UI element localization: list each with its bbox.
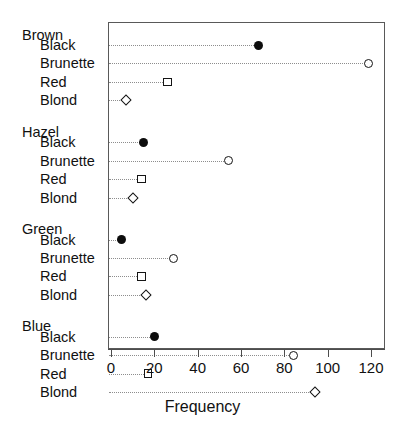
data-point-blue-blond (309, 386, 320, 397)
data-point-hazel-black (139, 138, 148, 147)
x-axis-tick (111, 350, 112, 357)
data-point-green-brunette (169, 254, 178, 263)
data-point-green-red (137, 272, 146, 281)
x-axis-tick (371, 350, 372, 357)
data-point-hazel-brunette (224, 156, 233, 165)
leader-line (109, 45, 258, 46)
leader-line (109, 392, 315, 393)
item-label-blue-red: Red (40, 367, 67, 382)
item-label-hazel-blond: Blond (40, 191, 77, 206)
x-axis-title: Frequency (0, 399, 405, 415)
x-axis-tick-label: 120 (346, 360, 396, 375)
item-label-brown-blond: Blond (40, 93, 77, 108)
dot-chart-figure: BrownBlackBrunetteRedBlondHazelBlackBrun… (0, 0, 405, 442)
data-point-brown-red (163, 78, 172, 87)
x-axis-tick (241, 350, 242, 357)
data-point-hazel-red (137, 175, 146, 184)
leader-line (109, 337, 154, 338)
x-axis-tick (154, 350, 155, 357)
item-label-brown-black: Black (40, 38, 75, 53)
x-axis-tick (284, 350, 285, 357)
item-label-green-blond: Blond (40, 288, 77, 303)
item-label-green-red: Red (40, 269, 67, 284)
leader-line (109, 355, 293, 356)
leader-line (109, 161, 228, 162)
x-axis-line (108, 349, 385, 350)
item-label-hazel-black: Black (40, 135, 75, 150)
leader-line (109, 82, 167, 83)
leader-line (109, 63, 369, 64)
item-label-green-brunette: Brunette (40, 251, 95, 266)
item-label-blue-blond: Blond (40, 385, 77, 400)
item-label-green-black: Black (40, 233, 75, 248)
item-label-blue-black: Black (40, 330, 75, 345)
x-axis-tick (198, 350, 199, 357)
plot-panel-border (108, 22, 385, 349)
x-axis-tick (328, 350, 329, 357)
item-label-hazel-red: Red (40, 172, 67, 187)
leader-line (109, 258, 174, 259)
item-label-brown-brunette: Brunette (40, 56, 95, 71)
data-point-brown-black (254, 41, 263, 50)
item-label-hazel-brunette: Brunette (40, 154, 95, 169)
item-label-brown-red: Red (40, 75, 67, 90)
